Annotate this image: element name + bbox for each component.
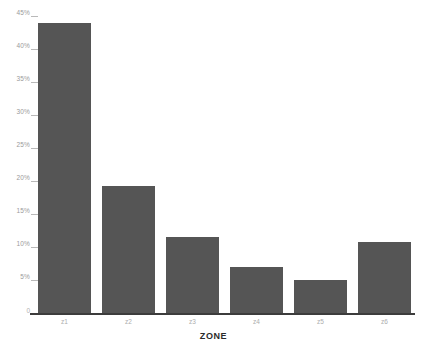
bar[interactable]	[230, 267, 283, 313]
bar[interactable]	[38, 23, 91, 313]
y-axis-tick-label: 15%	[16, 208, 30, 215]
x-axis-tick-label: z2	[102, 319, 155, 326]
x-axis-tick-label: z6	[358, 319, 411, 326]
y-axis-tick-mark	[31, 82, 38, 83]
y-axis-tick-mark	[31, 214, 38, 215]
y-axis-tick-label: 25%	[16, 142, 30, 149]
y-axis-tick-label: 45%	[16, 10, 30, 17]
y-axis-tick-mark	[31, 247, 38, 248]
bar[interactable]	[166, 237, 219, 313]
plot-area: 05%10%15%20%25%30%35%40%45% z1z2z3z4z5z6	[0, 0, 427, 353]
bar[interactable]	[102, 186, 155, 313]
x-axis-tick-label: z4	[230, 319, 283, 326]
x-axis-tick-label: z5	[294, 319, 347, 326]
y-axis-tick-label: 10%	[16, 241, 30, 248]
bar-chart: 05%10%15%20%25%30%35%40%45% z1z2z3z4z5z6…	[0, 0, 427, 353]
x-axis-tick-label: z3	[166, 319, 219, 326]
y-axis-tick-label: 5%	[20, 274, 30, 281]
y-axis-tick-mark	[31, 280, 38, 281]
y-axis-tick-label: 40%	[16, 43, 30, 50]
y-axis-tick-mark	[31, 148, 38, 149]
y-axis-tick-mark	[31, 181, 38, 182]
x-axis-title: ZONE	[0, 331, 427, 341]
y-axis-tick-label: 20%	[16, 175, 30, 182]
x-axis-tick-label: z1	[38, 319, 91, 326]
x-axis-line	[30, 313, 415, 315]
y-axis-tick-label: 30%	[16, 109, 30, 116]
y-axis-tick-mark	[31, 115, 38, 116]
bar[interactable]	[294, 280, 347, 313]
y-axis-tick-label: 35%	[16, 76, 30, 83]
y-axis-tick-mark	[31, 16, 38, 17]
y-axis-tick-mark	[31, 49, 38, 50]
bar[interactable]	[358, 242, 411, 313]
